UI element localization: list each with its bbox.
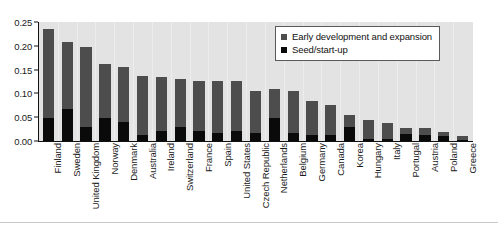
bar-segment-seed-startup — [419, 135, 430, 141]
bar-segment-seed-startup — [231, 131, 242, 141]
bar-united-states — [231, 22, 242, 141]
x-axis-label-belgium: Belgium — [297, 143, 308, 177]
bar-spain — [212, 22, 223, 141]
bar-segment-seed-startup — [43, 118, 54, 141]
bar-segment-early-development — [80, 47, 91, 127]
bar-segment-seed-startup — [325, 135, 336, 141]
y-axis-tick-label: 0.15 — [14, 64, 32, 75]
bar-denmark — [118, 22, 129, 141]
bar-segment-early-development — [137, 76, 148, 135]
x-axis-label-hungary: Hungary — [372, 143, 383, 178]
bar-norway — [99, 22, 110, 141]
x-axis-labels: FinlandSwedenUnited KingdomNorwayDenmark… — [39, 143, 472, 229]
x-axis-label-czech-republic: Czech Republic — [260, 143, 271, 208]
bar-segment-seed-startup — [80, 127, 91, 141]
x-axis-label-portugal: Portugal — [410, 143, 421, 178]
bar-segment-seed-startup — [156, 131, 167, 141]
x-axis-label-canada: Canada — [335, 143, 346, 176]
bar-segment-seed-startup — [137, 135, 148, 141]
y-axis-tick-label: 0.20 — [14, 40, 32, 51]
bar-segment-seed-startup — [344, 127, 355, 141]
bar-segment-seed-startup — [400, 134, 411, 141]
legend-item-seed-startup: Seed/start-up — [281, 43, 432, 56]
bar-segment-early-development — [99, 64, 110, 118]
bar-segment-seed-startup — [306, 135, 317, 141]
chart-legend: Early development and expansion Seed/sta… — [275, 26, 440, 61]
bar-segment-seed-startup — [457, 140, 468, 141]
bar-segment-early-development — [250, 91, 261, 133]
legend-label-seed: Seed/start-up — [292, 44, 348, 55]
legend-item-early-development: Early development and expansion — [281, 30, 432, 43]
bar-sweden — [62, 22, 73, 141]
bar-segment-early-development — [306, 101, 317, 136]
bar-segment-seed-startup — [212, 133, 223, 141]
bar-segment-early-development — [62, 42, 73, 109]
x-axis-label-italy: Italy — [391, 143, 402, 160]
bar-segment-early-development — [212, 81, 223, 133]
y-axis-tick-label: 0.25 — [14, 17, 32, 28]
bar-segment-seed-startup — [62, 109, 73, 141]
bar-segment-seed-startup — [269, 118, 280, 141]
bar-segment-early-development — [288, 91, 299, 133]
x-axis-label-united-kingdom: United Kingdom — [90, 143, 101, 209]
bar-segment-early-development — [175, 79, 186, 127]
bar-segment-seed-startup — [118, 122, 129, 141]
bar-segment-seed-startup — [288, 133, 299, 141]
y-axis-tick-label: 0.05 — [14, 112, 32, 123]
bar-segment-seed-startup — [193, 131, 204, 141]
bottom-divider — [0, 222, 498, 223]
bar-segment-early-development — [325, 105, 336, 135]
bar-segment-early-development — [231, 81, 242, 131]
bar-france — [193, 22, 204, 141]
x-axis-label-australia: Australia — [147, 143, 158, 179]
bar-greece — [457, 22, 468, 141]
x-axis-label-sweden: Sweden — [71, 143, 82, 177]
x-axis-label-france: France — [203, 143, 214, 172]
bar-segment-early-development — [269, 89, 280, 118]
bar-segment-early-development — [193, 81, 204, 131]
bar-ireland — [156, 22, 167, 141]
legend-swatch-icon-early — [281, 34, 287, 40]
y-axis: 0.000.050.100.150.200.25 — [0, 14, 38, 150]
bar-australia — [137, 22, 148, 141]
bar-segment-seed-startup — [438, 136, 449, 141]
y-axis-tick-label: 0.10 — [14, 88, 32, 99]
x-axis-label-austria: Austria — [429, 143, 440, 172]
bar-segment-early-development — [382, 123, 393, 139]
bar-finland — [43, 22, 54, 141]
bar-segment-seed-startup — [175, 127, 186, 141]
legend-swatch-icon-seed — [281, 47, 287, 53]
legend-label-early: Early development and expansion — [292, 31, 432, 42]
bar-segment-early-development — [363, 120, 374, 139]
x-axis-label-spain: Spain — [222, 143, 233, 167]
x-axis-label-poland: Poland — [448, 143, 459, 172]
bar-segment-early-development — [344, 115, 355, 127]
x-axis-label-united-states: United States — [241, 143, 252, 199]
bar-segment-early-development — [156, 77, 167, 131]
x-axis-label-netherlands: Netherlands — [278, 143, 289, 193]
x-axis-label-switzerland: Switzerland — [184, 143, 195, 191]
bar-united-kingdom — [80, 22, 91, 141]
bar-segment-seed-startup — [99, 118, 110, 141]
bar-segment-seed-startup — [363, 139, 374, 141]
x-axis-label-ireland: Ireland — [165, 143, 176, 171]
bar-segment-early-development — [118, 67, 129, 122]
x-axis-label-greece: Greece — [467, 143, 478, 174]
bar-segment-early-development — [43, 29, 54, 118]
x-axis-label-finland: Finland — [52, 143, 63, 173]
venture-capital-stacked-bar-chart: 0.000.050.100.150.200.25 FinlandSwedenUn… — [0, 0, 498, 231]
y-axis-tick-label: 0.00 — [14, 136, 32, 147]
bar-switzerland — [175, 22, 186, 141]
bar-czech-republic — [250, 22, 261, 141]
bar-segment-seed-startup — [250, 133, 261, 141]
x-axis-label-denmark: Denmark — [128, 143, 139, 181]
x-axis-label-germany: Germany — [316, 143, 327, 181]
x-axis-label-korea: Korea — [354, 143, 365, 168]
bar-segment-seed-startup — [382, 139, 393, 141]
x-axis-label-norway: Norway — [109, 143, 120, 175]
bar-segment-early-development — [419, 128, 430, 135]
